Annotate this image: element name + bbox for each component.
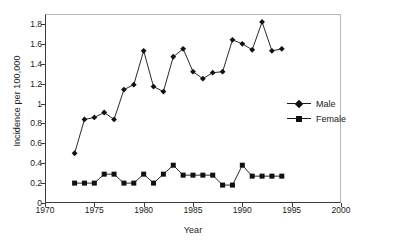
legend-item-male: Male	[287, 96, 367, 111]
data-point-square-icon	[82, 181, 87, 186]
data-point-diamond-icon	[151, 84, 157, 90]
data-point-square-icon	[181, 173, 186, 178]
data-point-square-icon	[171, 163, 176, 168]
data-point-square-icon	[191, 173, 196, 178]
data-point-diamond-icon	[72, 150, 78, 156]
data-point-diamond-icon	[249, 47, 255, 53]
data-point-square-icon	[141, 172, 146, 177]
data-point-diamond-icon	[131, 82, 137, 88]
data-point-diamond-icon	[161, 89, 167, 95]
data-point-diamond-icon	[82, 117, 88, 123]
data-point-diamond-icon	[269, 48, 275, 54]
data-point-diamond-icon	[121, 87, 127, 93]
data-point-square-icon	[121, 181, 126, 186]
series-female	[72, 163, 284, 188]
data-point-square-icon	[250, 174, 255, 179]
data-point-diamond-icon	[220, 69, 226, 75]
data-point-square-icon	[230, 183, 235, 188]
data-point-diamond-icon	[111, 117, 117, 123]
data-point-square-icon	[200, 173, 205, 178]
legend-label-male: Male	[311, 99, 336, 109]
series-line	[75, 22, 282, 153]
series-male	[72, 19, 285, 156]
data-point-square-icon	[269, 174, 274, 179]
data-point-square-icon	[112, 172, 117, 177]
data-point-diamond-icon	[190, 69, 196, 75]
data-point-square-icon	[161, 172, 166, 177]
data-point-diamond-icon	[259, 19, 265, 25]
data-point-square-icon	[151, 181, 156, 186]
data-point-diamond-icon	[141, 48, 147, 54]
data-point-square-icon	[240, 163, 245, 168]
legend-item-female: Female	[287, 111, 367, 126]
data-point-square-icon	[260, 174, 265, 179]
data-point-diamond-icon	[230, 37, 236, 43]
data-point-square-icon	[102, 172, 107, 177]
legend-marker-diamond-icon	[287, 98, 311, 110]
data-point-square-icon	[220, 183, 225, 188]
data-point-square-icon	[72, 181, 77, 186]
data-point-diamond-icon	[91, 115, 97, 121]
data-point-diamond-icon	[239, 41, 245, 47]
data-point-square-icon	[210, 173, 215, 178]
chart-legend: Male Female	[287, 96, 367, 126]
legend-label-female: Female	[311, 114, 346, 124]
data-point-square-icon	[279, 174, 284, 179]
data-point-diamond-icon	[101, 110, 107, 116]
data-point-diamond-icon	[210, 70, 216, 76]
incidence-line-chart: Incidence per 100,000 00.20.40.60.811.21…	[0, 0, 395, 247]
legend-marker-square-icon	[287, 113, 311, 125]
data-point-diamond-icon	[200, 76, 206, 82]
data-point-square-icon	[92, 181, 97, 186]
data-point-diamond-icon	[279, 46, 285, 52]
data-point-square-icon	[131, 181, 136, 186]
